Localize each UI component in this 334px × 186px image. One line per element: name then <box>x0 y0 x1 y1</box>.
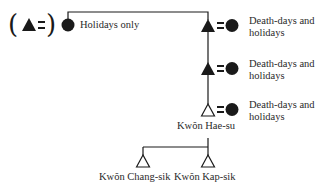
generation-1-ritual-label: Death-days and holidays <box>249 15 334 39</box>
kinship-diagram: ( ) Holidays only Death-days and holiday… <box>0 0 334 186</box>
open-triangle-icon <box>202 104 215 116</box>
generation-3-ritual-label: Death-days and holidays <box>249 99 334 123</box>
generation-2-node <box>201 62 239 75</box>
filled-circle-icon <box>226 19 239 32</box>
child-2-open-triangle-icon <box>202 155 215 167</box>
legend-open-paren: ( <box>8 11 18 37</box>
kwon-hae-su-name: Kwŏn Hae-su <box>177 120 235 132</box>
filled-triangle-icon <box>201 62 215 75</box>
root-circle-icon <box>62 19 75 32</box>
legend-close-paren: ) <box>46 11 56 37</box>
filled-circle-icon <box>226 103 239 116</box>
child-1-name: Kwŏn Chang-sik <box>99 171 170 183</box>
legend-equals-icon <box>38 21 45 23</box>
filled-circle-icon <box>226 62 239 75</box>
filled-triangle-icon <box>201 19 215 32</box>
equals-icon <box>217 22 224 24</box>
legend-filled-triangle-icon <box>22 18 36 31</box>
generation-3-node <box>202 103 239 116</box>
generation-1-node <box>201 19 239 32</box>
equals-icon <box>217 106 224 108</box>
root-label: Holidays only <box>80 19 139 31</box>
child-1-open-triangle-icon <box>137 155 150 167</box>
generation-2-ritual-label: Death-days and holidays <box>249 58 334 82</box>
legend-symbol <box>22 18 45 31</box>
equals-icon <box>217 65 224 67</box>
child-2-name: Kwŏn Kap-sik <box>174 171 236 183</box>
